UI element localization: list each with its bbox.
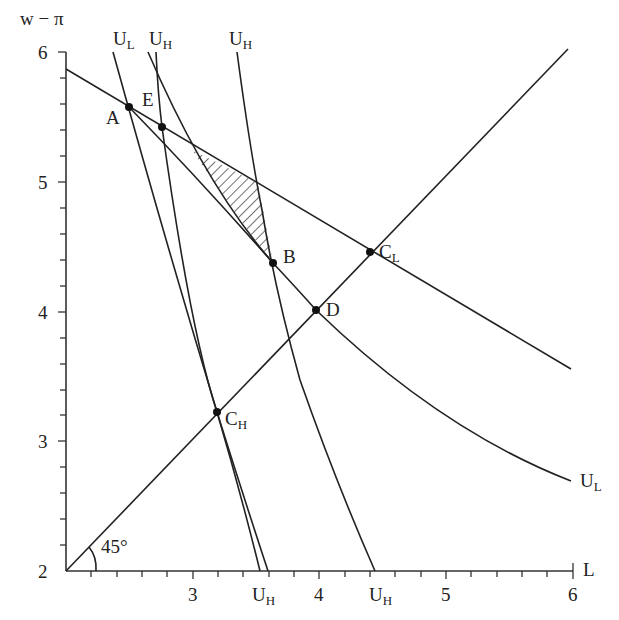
point-ch: [213, 408, 221, 416]
y-tick-labels: 6 5 4 3 2: [38, 42, 48, 582]
label-cl: CL: [379, 241, 400, 265]
label-e: E: [142, 89, 154, 110]
point-cl: [366, 248, 374, 256]
label-bottom-uh-2: UH: [369, 584, 392, 608]
y-tick-3: 3: [38, 431, 48, 452]
y-axis-label: w − π: [20, 8, 64, 29]
points: [125, 103, 374, 416]
label-bottom-uh-1: UH: [252, 584, 275, 608]
label-ch: CH: [225, 408, 247, 432]
label-a: A: [106, 107, 120, 128]
uh-curve-right: [237, 52, 375, 571]
angle-label: 45°: [101, 536, 128, 557]
label-top-ul: UL: [113, 28, 135, 52]
point-a: [125, 103, 133, 111]
y-tick-5: 5: [38, 172, 48, 193]
label-d: D: [326, 299, 340, 320]
x-tick-4: 4: [314, 584, 324, 605]
indifference-curve-diagram: 6 5 4 3 2 3 4 5 6 w − π L 45° A E B D: [0, 0, 619, 620]
x-tick-6: 6: [568, 584, 578, 605]
point-e: [158, 123, 166, 131]
label-b: B: [283, 246, 296, 267]
label-top-uh-1: UH: [149, 28, 172, 52]
x-tick-5: 5: [441, 584, 451, 605]
ul-curve-right: [129, 107, 571, 481]
uh-curve-steep: [156, 52, 268, 571]
x-axis-label: L: [583, 559, 595, 580]
y-tick-2: 2: [38, 561, 48, 582]
point-b: [269, 259, 277, 267]
x-tick-3: 3: [188, 584, 198, 605]
y-tick-6: 6: [38, 42, 48, 63]
point-d: [312, 306, 320, 314]
angle-arc: [89, 547, 96, 571]
ul-curve-steep: [113, 52, 260, 571]
cl-budget-line: [66, 69, 571, 369]
y-tick-4: 4: [38, 302, 48, 323]
label-top-uh-2: UH: [229, 28, 252, 52]
label-right-ul: UL: [580, 470, 602, 494]
